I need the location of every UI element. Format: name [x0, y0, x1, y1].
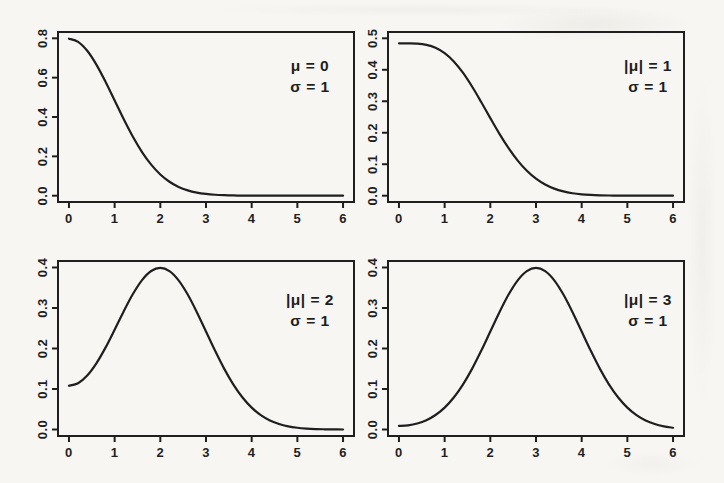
mu-value-label: |μ| = 1	[596, 55, 700, 76]
plot-canvas-mu-3: 01234560.00.10.20.30.4	[362, 241, 724, 483]
y-tick-label: 0.0	[365, 420, 380, 440]
x-tick-label: 3	[532, 211, 540, 226]
x-tick-label: 4	[578, 211, 586, 226]
annotation-mu-1: |μ| = 1 σ = 1	[596, 55, 700, 97]
panel-mu-2: 01234560.00.10.20.30.4 |μ| = 2 σ = 1	[0, 241, 362, 483]
x-tick-label: 0	[65, 445, 73, 460]
y-tick-label: 0.1	[365, 154, 380, 174]
x-tick-label: 6	[669, 445, 677, 460]
annotation-mu-3: |μ| = 3 σ = 1	[596, 289, 700, 331]
y-tick-label: 0.1	[35, 379, 50, 399]
annotation-mu-0: μ = 0 σ = 1	[258, 55, 362, 97]
x-tick-label: 1	[111, 445, 119, 460]
plot-box	[58, 261, 354, 436]
x-tick-label: 3	[202, 211, 210, 226]
y-tick-label: 0.0	[35, 186, 50, 206]
panel-mu-0: 01234560.00.20.40.60.8 μ = 0 σ = 1	[0, 0, 362, 241]
panel-mu-3: 01234560.00.10.20.30.4 |μ| = 3 σ = 1	[362, 241, 724, 483]
y-tick-label: 0.3	[365, 91, 380, 111]
x-tick-label: 0	[65, 211, 73, 226]
y-tick-label: 0.4	[35, 107, 50, 127]
y-tick-label: 0.0	[35, 420, 50, 440]
mu-value-label: μ = 0	[258, 55, 362, 76]
x-tick-label: 1	[111, 211, 119, 226]
x-tick-label: 5	[293, 445, 301, 460]
x-tick-label: 5	[623, 445, 631, 460]
x-tick-label: 6	[339, 445, 347, 460]
y-tick-label: 0.2	[365, 339, 380, 359]
x-tick-label: 4	[248, 211, 256, 226]
x-tick-label: 6	[669, 211, 677, 226]
x-tick-label: 0	[395, 211, 403, 226]
y-tick-label: 0.2	[35, 147, 50, 167]
x-tick-label: 3	[202, 445, 210, 460]
y-tick-label: 0.4	[365, 257, 380, 277]
x-tick-label: 2	[486, 211, 494, 226]
x-tick-label: 2	[156, 445, 164, 460]
x-tick-label: 3	[532, 445, 540, 460]
x-tick-label: 2	[156, 211, 164, 226]
x-tick-label: 1	[441, 445, 449, 460]
x-tick-label: 0	[395, 445, 403, 460]
sigma-value-label: σ = 1	[258, 310, 362, 331]
y-tick-label: 0.5	[365, 29, 380, 49]
y-tick-label: 0.0	[365, 186, 380, 206]
panel-mu-1: 01234560.00.10.20.30.40.5 |μ| = 1 σ = 1	[362, 0, 724, 241]
figure-density-panels: 01234560.00.20.40.60.8 μ = 0 σ = 1 01234…	[0, 0, 724, 483]
y-tick-label: 0.4	[365, 60, 380, 80]
x-tick-label: 2	[486, 445, 494, 460]
y-tick-label: 0.3	[365, 298, 380, 318]
y-tick-label: 0.6	[35, 68, 50, 88]
sigma-value-label: σ = 1	[596, 310, 700, 331]
y-tick-label: 0.2	[35, 339, 50, 359]
x-tick-label: 4	[248, 445, 256, 460]
x-tick-label: 5	[623, 211, 631, 226]
sigma-value-label: σ = 1	[596, 76, 700, 97]
y-tick-label: 0.8	[35, 29, 50, 49]
annotation-mu-2: |μ| = 2 σ = 1	[258, 289, 362, 331]
plot-canvas-mu-1: 01234560.00.10.20.30.40.5	[362, 0, 724, 241]
sigma-value-label: σ = 1	[258, 76, 362, 97]
mu-value-label: |μ| = 2	[258, 289, 362, 310]
x-tick-label: 1	[441, 211, 449, 226]
x-tick-label: 6	[339, 211, 347, 226]
y-tick-label: 0.2	[365, 123, 380, 143]
x-tick-label: 5	[293, 211, 301, 226]
plot-box	[388, 261, 684, 436]
y-tick-label: 0.4	[35, 257, 50, 277]
y-tick-label: 0.1	[365, 379, 380, 399]
mu-value-label: |μ| = 3	[596, 289, 700, 310]
x-tick-label: 4	[578, 445, 586, 460]
plot-canvas-mu-2: 01234560.00.10.20.30.4	[0, 241, 362, 483]
y-tick-label: 0.3	[35, 298, 50, 318]
plot-canvas-mu-0: 01234560.00.20.40.60.8	[0, 0, 362, 241]
